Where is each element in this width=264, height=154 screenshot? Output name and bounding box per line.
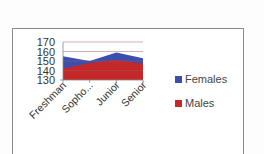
legend-swatch-males xyxy=(175,100,182,107)
legend-label-females: Females xyxy=(185,73,227,85)
legend-label-males: Males xyxy=(185,97,214,109)
legend-item-males: Males xyxy=(175,97,227,109)
legend-item-females: Females xyxy=(175,73,227,85)
x-tick-label: Senior xyxy=(118,79,148,109)
legend-swatch-females xyxy=(175,76,182,83)
y-tick-label: 130 xyxy=(37,74,55,86)
chart-legend: Females Males xyxy=(175,73,227,121)
x-tick-label: Junior xyxy=(93,79,122,108)
